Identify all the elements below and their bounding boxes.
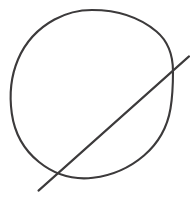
figure-background [0, 0, 196, 202]
geometry-figure-svg [0, 0, 196, 202]
figure-canvas [0, 0, 196, 202]
